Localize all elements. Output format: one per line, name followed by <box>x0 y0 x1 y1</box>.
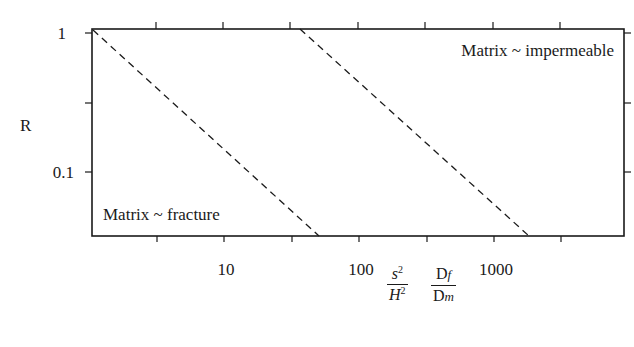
annotation-matrix-impermeable: Matrix ~ impermeable <box>461 41 614 60</box>
y-tick-label-0.1: 0.1 <box>53 163 74 182</box>
x-axis-title-fraction-df-over-dm: Df Dm <box>431 264 456 307</box>
x-title-d2: D <box>433 287 445 304</box>
x-axis-ticks-top <box>156 22 560 29</box>
x-title-h-exp: 2 <box>401 285 406 296</box>
y-axis-title: R <box>20 116 32 135</box>
x-axis-ticks-bottom <box>157 236 561 242</box>
boundary-line-impermeable <box>300 29 529 236</box>
x-title-s-exp: 2 <box>398 264 403 275</box>
x-tick-label-10: 10 <box>218 260 235 279</box>
x-tick-label-100: 100 <box>348 260 374 279</box>
y-axis-ticks-left <box>85 33 92 172</box>
y-axis-ticks-right <box>624 33 631 172</box>
x-axis-title-fraction-s-over-h: s2 H2 <box>387 264 408 305</box>
x-axis-title: s2 H2 Df Dm <box>385 264 515 334</box>
x-title-m-sub: m <box>445 289 454 304</box>
x-title-f-sub: f <box>447 267 451 282</box>
chart: 1 0.1 10 100 1000 R Matrix ~ impermeable… <box>0 0 634 347</box>
x-title-h: H <box>389 286 401 303</box>
x-title-d: D <box>436 265 448 282</box>
y-tick-label-1: 1 <box>58 24 67 43</box>
annotation-matrix-fracture: Matrix ~ fracture <box>103 205 220 224</box>
